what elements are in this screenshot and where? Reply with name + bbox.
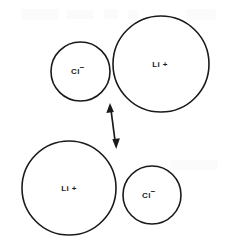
ion-element-symbol: Cl <box>142 191 151 200</box>
scan-smudge <box>66 10 94 19</box>
arrow-shaft <box>111 110 115 142</box>
ion-label-top-lithium: Li + <box>152 60 168 69</box>
scan-smudge <box>128 10 138 19</box>
scan-smudge <box>104 9 118 19</box>
scan-smudge <box>170 160 218 170</box>
arrow-head-up-icon <box>106 103 114 113</box>
arrow-head-down-icon <box>112 138 120 149</box>
double-headed-arrow <box>106 103 120 149</box>
ion-charge-symbol: − <box>80 63 85 72</box>
ion-element-symbol: Cl <box>71 67 80 76</box>
ion-charge-symbol: − <box>151 187 156 196</box>
ion-pair-diagram: Cl− Li + Li + Cl− <box>0 0 226 249</box>
scan-smudge <box>22 9 58 20</box>
ion-label-bottom-lithium: Li + <box>61 184 77 193</box>
diagram-canvas: Cl− Li + Li + Cl− <box>0 0 226 249</box>
scan-smudge <box>186 9 216 20</box>
